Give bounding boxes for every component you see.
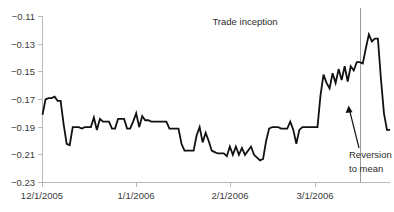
x-tick-label: 1/1/2006 <box>118 190 155 201</box>
line-chart: −0.11 −0.13 −0.15 −0.17 −0.19 −0.21 −0.2… <box>0 0 394 212</box>
y-tick-label: −0.19 <box>11 122 35 133</box>
x-tick-label: 2/1/2006 <box>212 190 249 201</box>
annotation-reversion-line1: Reversion <box>349 149 392 160</box>
y-tick-label: −0.15 <box>11 66 35 77</box>
annotation-reversion-line2: to mean <box>349 163 383 174</box>
y-tick-label: −0.17 <box>11 94 35 105</box>
y-tick-label: −0.21 <box>11 149 35 160</box>
y-tick-label: −0.11 <box>12 11 35 22</box>
y-tick-label: −0.13 <box>11 39 35 50</box>
y-tick-label: −0.23 <box>11 177 35 188</box>
chart-container: −0.11 −0.13 −0.15 −0.17 −0.19 −0.21 −0.2… <box>0 0 394 212</box>
chart-background <box>0 0 394 212</box>
x-tick-label: 12/1/2005 <box>21 190 63 201</box>
annotation-trade-inception: Trade inception <box>212 16 277 27</box>
x-tick-label: 3/1/2006 <box>297 190 334 201</box>
